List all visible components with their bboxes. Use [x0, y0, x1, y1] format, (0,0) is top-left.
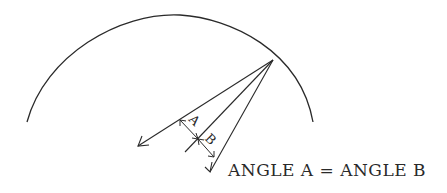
caption: ANGLE A = ANGLE B: [228, 160, 426, 180]
arrowheads: [138, 136, 212, 172]
ray-left: [138, 60, 273, 146]
rays: [138, 60, 273, 172]
angle-b-label: B: [202, 131, 219, 148]
circle-arc: [27, 15, 313, 122]
angle-a-label: A: [185, 111, 203, 129]
